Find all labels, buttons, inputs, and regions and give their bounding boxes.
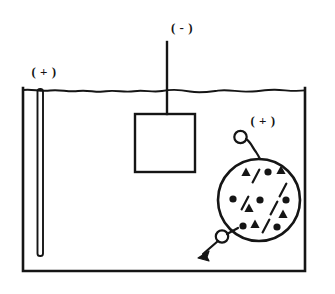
particle-dot-icon [273, 223, 280, 230]
particle-charge-label: ( + ) [250, 113, 275, 128]
particle-dot-icon [282, 196, 289, 203]
particle-dot-icon [256, 196, 263, 203]
electrolysis-diagram: ( + ) ( - ) ( + ) [0, 0, 335, 294]
particle-dot-icon [239, 222, 246, 229]
cathode-label: ( - ) [171, 20, 193, 35]
anode-label: ( + ) [31, 64, 56, 79]
particle-dot-icon [229, 195, 236, 202]
particle-dot-icon [264, 168, 271, 175]
